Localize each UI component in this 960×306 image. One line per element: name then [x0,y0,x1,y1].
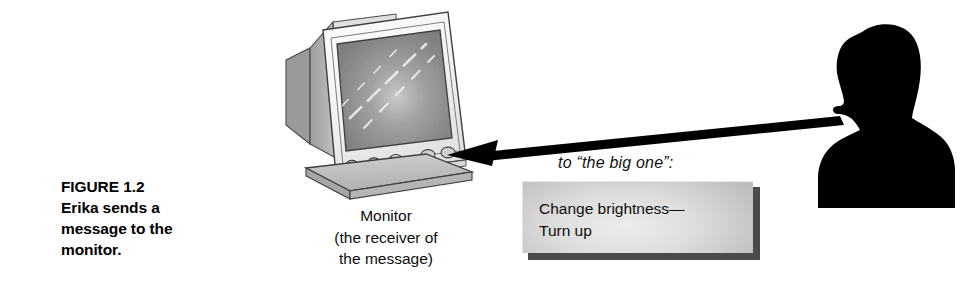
message-box: Change brightness— Turn up [522,181,760,261]
figure-caption: FIGURE 1.2 Erika sends a message to the … [61,176,241,260]
person-silhouette-icon [800,18,960,223]
caption-line-4: monitor. [61,239,241,260]
caption-line-3: message to the [61,218,241,239]
monitor-label: Monitor (the receiver of the message) [291,205,481,270]
monitor-label-line-3: the message) [291,248,481,270]
monitor-label-line-2: (the receiver of [291,227,481,249]
message-box-text: Change brightness— Turn up [539,198,685,242]
caption-line-1: FIGURE 1.2 [61,176,241,197]
message-line-1: Change brightness— [539,198,685,220]
message-line-2: Turn up [539,220,685,242]
caption-line-2: Erika sends a [61,197,241,218]
monitor-label-line-1: Monitor [291,205,481,227]
message-intro-text: to “the big one”: [558,153,673,173]
message-box-panel: Change brightness— Turn up [522,181,753,253]
figure-illustration: FIGURE 1.2 Erika sends a message to the … [0,0,960,306]
